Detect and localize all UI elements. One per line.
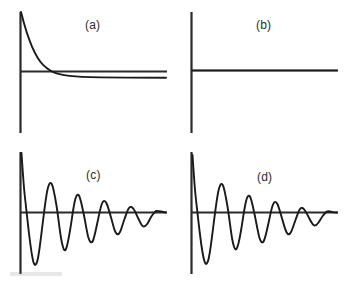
panel-label-a: (a) (85, 18, 100, 32)
scan-artifact (10, 272, 62, 276)
panel-label-d: (d) (257, 170, 272, 184)
figure-background (0, 0, 349, 283)
four-panel-signal-figure (0, 0, 349, 283)
panel-label-b: (b) (256, 18, 271, 32)
panel-label-c: (c) (86, 168, 101, 182)
